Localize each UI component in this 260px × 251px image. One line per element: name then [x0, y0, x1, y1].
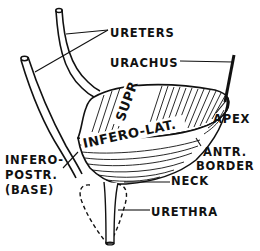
label-apex: APEX [213, 112, 250, 126]
urethra-outline [80, 184, 126, 245]
label-ureters: URETERS [110, 26, 175, 40]
label-infero-postr-3: (BASE) [5, 183, 54, 197]
label-antr-border-2: BORDER [196, 159, 254, 173]
label-antr-border-1: ANTR. [203, 145, 247, 159]
label-urethra: URETHRA [151, 205, 218, 219]
label-infero-postr-2: POSTR. [5, 168, 58, 182]
label-neck: NECK [171, 174, 209, 188]
bladder-diagram: URETERS URACHUS APEX ANTR. BORDER INFERO… [0, 0, 260, 251]
label-urachus: URACHUS [110, 56, 178, 70]
label-infero-postr-1: INFERO- [5, 153, 64, 167]
